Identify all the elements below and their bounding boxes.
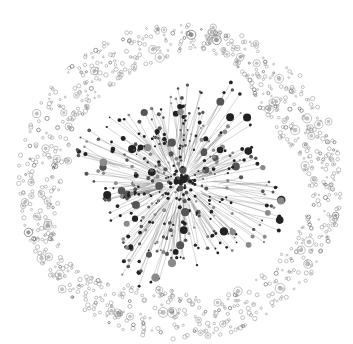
hub-nodes	[76, 80, 286, 287]
network-diagram	[0, 0, 353, 344]
network-graph-canvas	[0, 0, 353, 344]
